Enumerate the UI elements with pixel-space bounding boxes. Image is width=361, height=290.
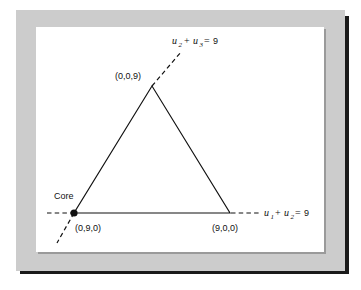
constraint-u2u3-equals: = [204,35,210,46]
constraint-u1u2-sub-b: 2 [291,213,295,221]
constraint-u1u2-var-a: u [264,207,269,218]
dashed-ray-u2u3-lower [57,213,74,243]
dashed-ray-u2u3-upper [152,52,181,86]
constraint-u2u3-var-b: u [193,35,198,46]
vertex-label-right: (9,0,0) [212,223,238,233]
diagram-canvas: u 2 + u 3 = 9 u 1 + u 2 = 9 (0,0,9) Cor [36,27,324,252]
constraint-u2u3-sub-a: 2 [179,41,183,49]
constraint-u1u2-operator: + [275,207,281,218]
constraint-u2u3-value: 9 [213,36,218,46]
core-label: Core [54,191,74,201]
vertex-label-top: (0,0,9) [115,71,141,81]
constraint-label-u2u3: u 2 + u 3 = 9 [172,35,218,49]
diagram-svg: u 2 + u 3 = 9 u 1 + u 2 = 9 (0,0,9) Cor [36,27,324,252]
core-point-marker [70,209,77,216]
constraint-u2u3-sub-b: 3 [199,41,204,49]
constraint-u1u2-sub-a: 1 [271,213,275,221]
constraint-u1u2-value: 9 [304,208,309,218]
figure-plate: u 2 + u 3 = 9 u 1 + u 2 = 9 (0,0,9) Cor [16,10,345,274]
figure-shadow-right [345,16,349,274]
constraint-u2u3-var-a: u [172,35,177,46]
constraint-u1u2-var-b: u [284,207,289,218]
simplex-triangle [74,86,230,213]
constraint-label-u1u2: u 1 + u 2 = 9 [264,207,309,221]
constraint-u1u2-equals: = [295,207,301,218]
vertex-label-left: (0,9,0) [75,223,101,233]
constraint-u2u3-operator: + [184,35,190,46]
